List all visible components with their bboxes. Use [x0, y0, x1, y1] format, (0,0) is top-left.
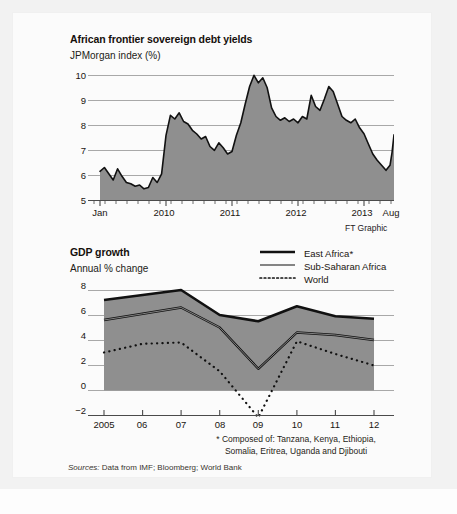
bottom-chart-xtick-12: 12	[356, 419, 392, 430]
bottom-chart-title: GDP growth	[70, 246, 129, 258]
bottom-chart-subtitle: Annual % change	[70, 263, 148, 274]
footnote-line-2: Somalia, Eritrea, Uganda and Djibouti	[188, 446, 404, 456]
bottom-chart-area	[104, 290, 374, 391]
top-chart-xtick-2010: 2010	[146, 207, 182, 218]
bottom-chart-xticks	[104, 410, 374, 416]
sources-text: Data from IMF; Bloomberg; World Bank	[100, 463, 242, 472]
bottom-chart-ytick-8: 8	[62, 280, 86, 291]
top-chart-ytick-6: 6	[60, 170, 86, 181]
bottom-chart-xtick-10: 10	[279, 419, 315, 430]
bottom-chart-xtick-08: 08	[202, 419, 238, 430]
bottom-chart-plot	[88, 284, 394, 424]
top-chart-xticks-major	[100, 201, 364, 206]
top-chart-ytick-9: 9	[60, 95, 86, 106]
top-chart-ytick-8: 8	[60, 120, 86, 131]
bottom-chart-xtick-2005: 2005	[86, 419, 122, 430]
legend-label-sub-saharan-africa: Sub-Saharan Africa	[304, 261, 386, 272]
bottom-chart-ytick-neg2: −2	[58, 405, 86, 416]
legend-swatches	[259, 247, 301, 287]
bottom-chart-xtick-09: 09	[240, 419, 276, 430]
bottom-chart-ytick-4: 4	[62, 330, 86, 341]
top-chart-xtick-2012: 2012	[278, 207, 314, 218]
bottom-chart-xtick-11: 11	[317, 419, 353, 430]
footnote-line-1: * Composed of: Tanzana, Kenya, Ethiopia,	[188, 434, 404, 444]
bottom-chart-xtick-07: 07	[163, 419, 199, 430]
bottom-chart-ytick-6: 6	[62, 305, 86, 316]
sources-label: Sources:	[68, 463, 100, 472]
top-chart-title: African frontier sovereign debt yields	[70, 33, 252, 45]
top-chart-plot	[88, 74, 394, 211]
figure-bottom-strip	[0, 489, 457, 514]
legend-label-east-africa: East Africa*	[304, 248, 353, 259]
top-chart-ytick-10: 10	[60, 70, 86, 81]
bottom-chart-ytick-0: 0	[62, 380, 86, 391]
top-chart-xtick-jan: Jan	[82, 207, 118, 218]
ft-graphic-credit: FT Graphic	[345, 223, 387, 233]
top-chart-xticks	[94, 201, 391, 204]
sources-line: Sources: Data from IMF; Bloomberg; World…	[68, 463, 242, 472]
top-chart-subtitle: JPMorgan index (%)	[70, 50, 161, 61]
bottom-chart-ytick-2: 2	[62, 355, 86, 366]
top-chart-ytick-5: 5	[60, 195, 86, 206]
top-chart-xtick-aug: Aug	[373, 207, 409, 218]
ft-graphic-figure: African frontier sovereign debt yields J…	[0, 0, 457, 514]
bottom-chart-xtick-06: 06	[124, 419, 160, 430]
top-chart-ytick-7: 7	[60, 145, 86, 156]
top-chart-xtick-2011: 2011	[212, 207, 248, 218]
